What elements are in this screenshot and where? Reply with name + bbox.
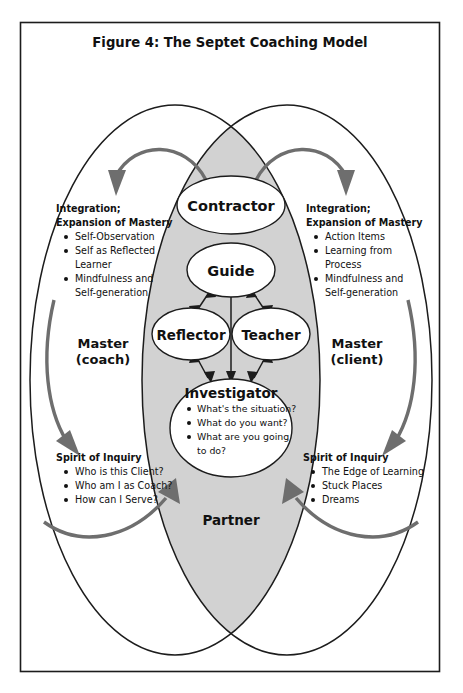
left-integration-head-line1: Integration; bbox=[56, 203, 121, 214]
right-inquiry-item: Stuck Places bbox=[322, 480, 382, 491]
right-integration-bullet-dot bbox=[314, 235, 318, 239]
master-client-label-line2: (client) bbox=[331, 352, 384, 367]
investigator-item: What are you going bbox=[197, 431, 289, 442]
investigator-item: What do you want? bbox=[197, 417, 288, 428]
figure-title: Figure 4: The Septet Coaching Model bbox=[92, 35, 367, 50]
right-integration-bullet-dot bbox=[314, 249, 318, 253]
right-integration-head-line2: Expansion of Mastery bbox=[306, 217, 423, 228]
left-integration-bullet-dot bbox=[64, 235, 68, 239]
investigator-bullet-dot bbox=[187, 407, 191, 411]
left-inquiry-item: How can I Serve? bbox=[75, 494, 158, 505]
investigator-bullet-dot bbox=[187, 421, 191, 425]
right-integration-item: Action Items bbox=[325, 231, 385, 242]
left-integration-item: Self-Observation bbox=[75, 231, 155, 242]
node-contractor-label: Contractor bbox=[187, 198, 275, 214]
left-inquiry-item: Who am I as Coach? bbox=[75, 480, 172, 491]
right-inquiry-bullet-dot bbox=[311, 484, 315, 488]
right-inquiry-bullet-dot bbox=[311, 470, 315, 474]
left-inquiry-item: Who is this Client? bbox=[75, 466, 164, 477]
left-integration-item: Mindfulness and bbox=[75, 273, 153, 284]
master-coach-label-line1: Master bbox=[78, 336, 129, 351]
right-integration-item: Self-generation bbox=[325, 287, 398, 298]
left-integration-item: Self-generation bbox=[75, 287, 148, 298]
investigator-bullet-dot bbox=[187, 435, 191, 439]
left-inquiry-bullet-dot bbox=[64, 498, 68, 502]
master-coach-label-line2: (coach) bbox=[76, 352, 130, 367]
node-reflector-label: Reflector bbox=[156, 327, 225, 343]
investigator-item: to do? bbox=[197, 445, 226, 456]
right-inquiry-head: Spirit of Inquiry bbox=[303, 452, 389, 463]
left-integration-bullet-dot bbox=[64, 277, 68, 281]
master-client-label-line1: Master bbox=[332, 336, 383, 351]
left-integration-item: Learner bbox=[75, 259, 112, 270]
left-integration-item: Self as Reflected bbox=[75, 245, 155, 256]
right-integration-item: Process bbox=[325, 259, 361, 270]
node-guide-label: Guide bbox=[207, 263, 255, 279]
left-inquiry-head: Spirit of Inquiry bbox=[56, 452, 142, 463]
right-integration-item: Learning from bbox=[325, 245, 392, 256]
left-integration-head-line2: Expansion of Mastery bbox=[56, 217, 173, 228]
left-inquiry-bullet-dot bbox=[64, 484, 68, 488]
node-investigator-label: Investigator bbox=[185, 385, 278, 401]
figure-container: Figure 4: The Septet Coaching Model bbox=[0, 0, 463, 693]
right-integration-head-line1: Integration; bbox=[306, 203, 371, 214]
investigator-item: What's the situation? bbox=[197, 403, 296, 414]
right-inquiry-item: Dreams bbox=[322, 494, 359, 505]
right-integration-bullet-dot bbox=[314, 277, 318, 281]
right-inquiry-bullet-dot bbox=[311, 498, 315, 502]
node-teacher-label: Teacher bbox=[241, 327, 300, 343]
node-partner-label: Partner bbox=[202, 512, 260, 528]
left-inquiry-bullet-dot bbox=[64, 470, 68, 474]
right-inquiry-item: The Edge of Learning bbox=[321, 466, 424, 477]
left-integration-bullet-dot bbox=[64, 249, 68, 253]
right-integration-item: Mindfulness and bbox=[325, 273, 403, 284]
septet-coaching-model-diagram: Figure 4: The Septet Coaching Model bbox=[0, 0, 463, 693]
